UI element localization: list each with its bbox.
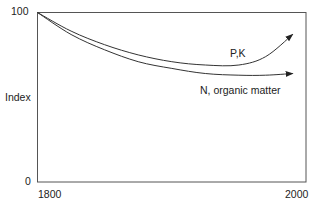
series-n-label: N, organic matter — [200, 84, 281, 96]
series-pk-label: P,K — [230, 47, 246, 59]
series-pk-line — [38, 13, 293, 66]
series-n-line — [38, 13, 293, 76]
chart-canvas — [0, 0, 315, 206]
x-tick-2000: 2000 — [285, 188, 308, 200]
y-tick-100: 100 — [11, 5, 29, 17]
y-axis-label: Index — [5, 91, 31, 103]
y-tick-0: 0 — [25, 175, 31, 187]
x-tick-1800: 1800 — [38, 188, 61, 200]
